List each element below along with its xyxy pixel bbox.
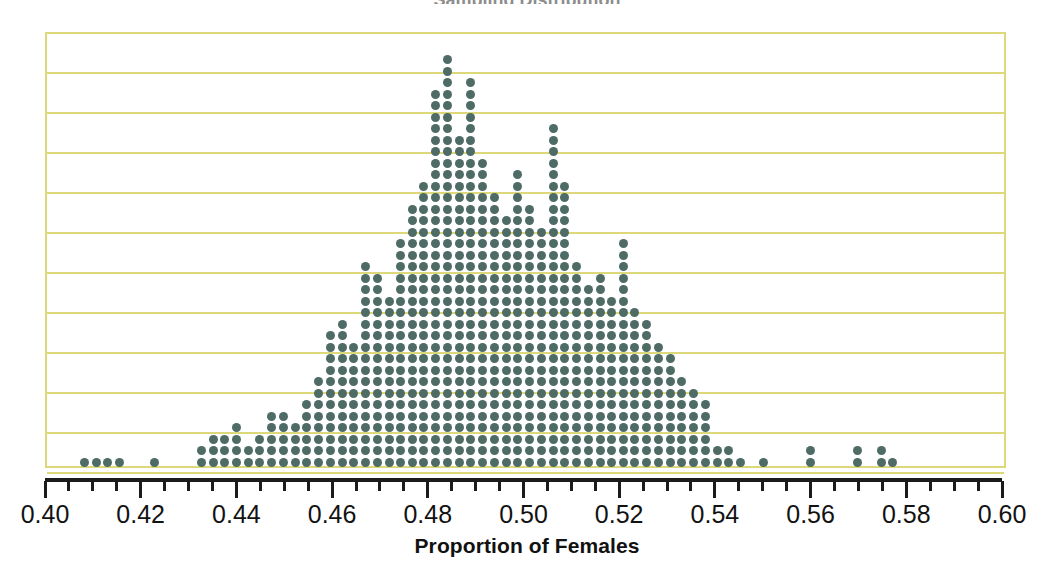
gridline xyxy=(47,72,1004,74)
x-axis-minor-tick xyxy=(785,481,788,491)
x-axis-major-tick xyxy=(522,481,525,498)
gridline xyxy=(47,352,1004,354)
x-axis-minor-tick xyxy=(570,481,573,491)
x-axis-minor-tick xyxy=(666,481,669,491)
gridline xyxy=(47,112,1004,114)
x-axis-minor-tick xyxy=(977,481,980,491)
gridline xyxy=(47,432,1004,434)
gridline xyxy=(47,472,1004,474)
x-axis-minor-tick xyxy=(187,481,190,491)
x-axis-minor-tick xyxy=(307,481,310,491)
x-axis-tick-label: 0.46 xyxy=(308,500,357,528)
x-axis-tick-label: 0.50 xyxy=(499,500,548,528)
x-axis-minor-tick xyxy=(498,481,501,491)
x-axis-minor-tick xyxy=(91,481,94,491)
x-axis-tick-label: 0.44 xyxy=(212,500,261,528)
x-axis-minor-tick xyxy=(474,481,477,491)
x-axis-minor-tick xyxy=(929,481,932,491)
x-axis-minor-tick xyxy=(737,481,740,491)
x-axis-tick-label: 0.54 xyxy=(691,500,740,528)
x-axis-major-tick xyxy=(809,481,812,498)
x-axis-minor-tick xyxy=(283,481,286,491)
x-axis-minor-tick xyxy=(953,481,956,491)
x-axis-minor-tick xyxy=(259,481,262,491)
x-axis-title: Proportion of Females xyxy=(0,534,1054,558)
x-axis-major-tick xyxy=(235,481,238,498)
x-axis-minor-tick xyxy=(378,481,381,491)
cropped-title-fragment: Sampling Distribution xyxy=(0,0,1054,4)
x-axis-minor-tick xyxy=(594,481,597,491)
x-axis-major-tick xyxy=(618,481,621,498)
x-axis-major-tick xyxy=(1001,481,1004,498)
x-axis-tick-label: 0.56 xyxy=(786,500,835,528)
x-axis-tick-label: 0.48 xyxy=(403,500,452,528)
x-axis-major-tick xyxy=(44,481,47,498)
x-axis-major-tick xyxy=(905,481,908,498)
gridline xyxy=(47,312,1004,314)
x-axis-minor-tick xyxy=(546,481,549,491)
x-axis-tick-label: 0.52 xyxy=(595,500,644,528)
x-axis-minor-tick xyxy=(355,481,358,491)
x-axis-major-tick xyxy=(139,481,142,498)
gridline xyxy=(47,232,1004,234)
x-axis-minor-tick xyxy=(642,481,645,491)
x-axis-minor-tick xyxy=(833,481,836,491)
x-axis-minor-tick xyxy=(881,481,884,491)
x-axis-minor-tick xyxy=(211,481,214,491)
x-axis-minor-tick xyxy=(857,481,860,491)
x-axis-major-tick xyxy=(331,481,334,498)
x-axis-minor-tick xyxy=(115,481,118,491)
gridline xyxy=(47,152,1004,154)
x-axis-minor-tick xyxy=(67,481,70,491)
x-axis: 0.400.420.440.460.480.500.520.540.560.58… xyxy=(0,478,1054,538)
x-axis-major-tick xyxy=(426,481,429,498)
x-axis-minor-tick xyxy=(761,481,764,491)
dot-plot-figure: Sampling Distribution 0.400.420.440.460.… xyxy=(0,0,1054,566)
gridline xyxy=(47,192,1004,194)
x-axis-minor-tick xyxy=(163,481,166,491)
x-axis-minor-tick xyxy=(450,481,453,491)
x-axis-tick-label: 0.58 xyxy=(882,500,931,528)
gridline xyxy=(47,392,1004,394)
x-axis-tick-label: 0.42 xyxy=(116,500,165,528)
x-axis-tick-label: 0.40 xyxy=(21,500,70,528)
x-axis-tick-label: 0.60 xyxy=(978,500,1027,528)
gridlines xyxy=(47,34,1004,466)
x-axis-minor-tick xyxy=(689,481,692,491)
gridline xyxy=(47,272,1004,274)
x-axis-minor-tick xyxy=(402,481,405,491)
plot-frame xyxy=(45,32,1006,468)
x-axis-major-tick xyxy=(713,481,716,498)
